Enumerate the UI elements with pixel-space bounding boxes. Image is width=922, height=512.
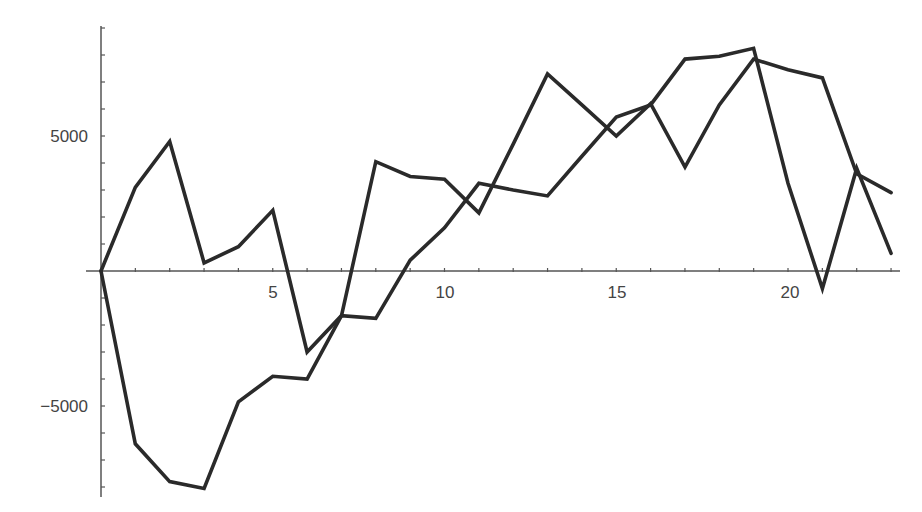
x-axis: 5 10 15 20 bbox=[86, 268, 900, 302]
series-2-line bbox=[101, 48, 891, 488]
plot-area bbox=[101, 48, 891, 488]
x-tick-label-20: 20 bbox=[781, 283, 800, 302]
y-axis: 5000 −5000 bbox=[40, 26, 105, 497]
y-tick-label-neg-5000: −5000 bbox=[40, 397, 88, 416]
series-1-line bbox=[101, 59, 891, 352]
x-tick-label-10: 10 bbox=[436, 283, 455, 302]
x-tick-label-15: 15 bbox=[608, 283, 627, 302]
line-chart: 5000 −5000 5 10 15 20 bbox=[0, 0, 922, 512]
x-tick-label-5: 5 bbox=[268, 283, 277, 302]
y-tick-label-5000: 5000 bbox=[50, 127, 88, 146]
